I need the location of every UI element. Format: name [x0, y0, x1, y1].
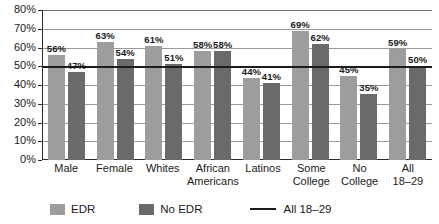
- bar-no-edr: 41%: [263, 83, 280, 160]
- bar-value-label: 51%: [164, 53, 183, 63]
- y-tick-label: 80%: [14, 4, 36, 15]
- bar-value-label: 54%: [116, 48, 135, 58]
- bar-value-label: 61%: [144, 35, 163, 45]
- bar-group: 45%35%: [335, 10, 384, 160]
- legend-item-edr: EDR: [50, 203, 95, 215]
- bar-value-label: 47%: [67, 61, 86, 71]
- reference-line-all-18-29: [43, 66, 432, 68]
- y-axis: 80%70%60%50%40%30%20%10%0%: [0, 0, 42, 170]
- bar-value-label: 56%: [47, 44, 66, 54]
- x-axis-label-line: Male: [42, 162, 90, 175]
- bar-group: 69%62%: [286, 10, 335, 160]
- bar-no-edr: 47%: [68, 72, 85, 160]
- bar-no-edr: 51%: [165, 64, 182, 160]
- x-axis-labels: MaleFemaleWhitesAfricanAmericansLatinosS…: [42, 162, 432, 194]
- bar-value-label: 35%: [359, 83, 378, 93]
- x-axis-label-line: College: [335, 175, 383, 188]
- bar-chart: 80%70%60%50%40%30%20%10%0% 56%47%63%54%6…: [0, 0, 439, 224]
- bar-edr: 44%: [243, 78, 260, 161]
- y-tick-label: 30%: [14, 98, 36, 109]
- x-axis-label: AfricanAmericans: [187, 162, 239, 194]
- x-axis-label-line: African: [187, 162, 239, 175]
- x-axis-label-line: 18–29: [384, 175, 432, 188]
- bar-no-edr: 50%: [409, 66, 426, 160]
- x-axis-label: Whites: [139, 162, 187, 194]
- x-axis-label-line: Some: [287, 162, 335, 175]
- bar-value-label: 59%: [388, 38, 407, 48]
- x-axis-label: Male: [42, 162, 90, 194]
- bar-group: 63%54%: [91, 10, 140, 160]
- y-tick-label: 60%: [14, 42, 36, 53]
- legend-label-edr: EDR: [71, 203, 95, 215]
- bar-group: 56%47%: [42, 10, 91, 160]
- bar-value-label: 62%: [311, 33, 330, 43]
- x-axis-label: Female: [90, 162, 138, 194]
- x-axis-label-line: Latinos: [239, 162, 287, 175]
- bar-value-label: 41%: [262, 72, 281, 82]
- bar-value-label: 44%: [242, 67, 261, 77]
- legend-item-no-edr: No EDR: [139, 203, 202, 215]
- x-axis-label-line: Americans: [187, 175, 239, 188]
- bar-group: 61%51%: [140, 10, 189, 160]
- x-axis-label: All18–29: [384, 162, 432, 194]
- bar-value-label: 58%: [193, 40, 212, 50]
- y-tick-label: 50%: [14, 60, 36, 71]
- bar-group: 58%58%: [188, 10, 237, 160]
- bar-no-edr: 62%: [312, 44, 329, 160]
- bar-value-label: 63%: [96, 31, 115, 41]
- chart-legend: EDR No EDR All 18–29: [42, 199, 432, 219]
- legend-swatch-no-edr-icon: [139, 204, 154, 215]
- bar-edr: 56%: [48, 55, 65, 160]
- x-axis-label: NoCollege: [335, 162, 383, 194]
- x-axis-label-line: No: [335, 162, 383, 175]
- y-tick-mark: [38, 160, 42, 161]
- bar-edr: 61%: [145, 46, 162, 160]
- y-tick-label: 70%: [14, 23, 36, 34]
- legend-swatch-edr-icon: [50, 204, 65, 215]
- x-axis-label-line: Whites: [139, 162, 187, 175]
- x-axis-label-line: All: [384, 162, 432, 175]
- legend-label-all-18-29: All 18–29: [283, 203, 331, 215]
- x-axis-label: SomeCollege: [287, 162, 335, 194]
- x-axis-label: Latinos: [239, 162, 287, 194]
- bar-group: 44%41%: [237, 10, 286, 160]
- bar-groups: 56%47%63%54%61%51%58%58%44%41%69%62%45%3…: [42, 10, 432, 160]
- legend-label-no-edr: No EDR: [160, 203, 202, 215]
- x-axis-label-line: Female: [90, 162, 138, 175]
- bar-edr: 63%: [97, 42, 114, 160]
- bar-no-edr: 35%: [360, 94, 377, 160]
- bar-no-edr: 54%: [117, 59, 134, 160]
- bar-value-label: 58%: [213, 40, 232, 50]
- bar-group: 59%50%: [383, 10, 432, 160]
- bar-value-label: 50%: [408, 55, 427, 65]
- y-tick-label: 0%: [20, 154, 36, 165]
- legend-line-icon: [250, 208, 276, 210]
- x-axis-label-line: College: [287, 175, 335, 188]
- bar-value-label: 45%: [339, 65, 358, 75]
- y-tick-label: 20%: [14, 117, 36, 128]
- y-tick-label: 40%: [14, 79, 36, 90]
- legend-item-all-18-29: All 18–29: [250, 203, 331, 215]
- y-tick-label: 10%: [14, 135, 36, 146]
- bar-value-label: 69%: [291, 20, 310, 30]
- bar-edr: 45%: [340, 76, 357, 160]
- bar-edr: 69%: [292, 31, 309, 160]
